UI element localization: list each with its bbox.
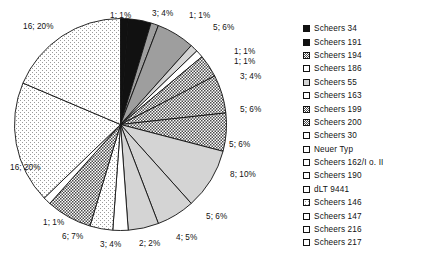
legend-item-label: Scheers 55 <box>314 78 357 87</box>
legend-item[interactable]: Scheers 217 <box>303 236 431 249</box>
pie-slice-label: 1; 1% <box>234 57 255 66</box>
pie-slice-label: 4; 5% <box>176 233 197 242</box>
legend-swatch-icon <box>303 186 310 193</box>
legend-item[interactable]: Scheers 186 <box>303 62 431 75</box>
legend-item-label: Scheers 190 <box>314 171 362 180</box>
pie-slice-label: 1; 1% <box>234 47 255 56</box>
legend-item-label: Scheers 200 <box>314 118 362 127</box>
legend-item[interactable]: Scheers 147 <box>303 209 431 222</box>
legend-swatch-icon <box>303 159 310 166</box>
legend-swatch-icon <box>303 172 310 179</box>
pie-slice-label: 6; 7% <box>62 232 83 241</box>
legend-swatch-icon <box>303 213 310 220</box>
legend-item[interactable]: Scheers 194 <box>303 49 431 62</box>
pie-slice-label: 5; 6% <box>240 105 261 114</box>
pie-slice-label: 5; 6% <box>206 212 227 221</box>
legend-swatch-icon <box>303 65 310 72</box>
legend-swatch-icon <box>303 199 310 206</box>
legend-swatch-icon <box>303 226 310 233</box>
pie-slice-label: 16; 20% <box>10 163 41 172</box>
legend-item-label: Scheers 30 <box>314 131 357 140</box>
legend-item[interactable]: Scheers 190 <box>303 169 431 182</box>
legend-item[interactable]: Neuer Typ <box>303 143 431 156</box>
legend-item[interactable]: Scheers 30 <box>303 129 431 142</box>
legend-item-label: Scheers 199 <box>314 105 362 114</box>
pie-slice-label: 3; 4% <box>152 9 173 18</box>
pie-slice-label: 16; 20% <box>23 22 54 31</box>
pie-slice-label: 2; 2% <box>139 239 160 248</box>
legend-item-label: Scheers 194 <box>314 51 362 60</box>
legend-item-label: Scheers 217 <box>314 238 362 247</box>
legend-item[interactable]: Scheers 163 <box>303 89 431 102</box>
legend-item-label: Scheers 34 <box>314 24 357 33</box>
legend-item[interactable]: Scheers 55 <box>303 76 431 89</box>
legend-item[interactable]: Scheers 34 <box>303 22 431 35</box>
pie-slice-label: 5; 6% <box>229 140 250 149</box>
legend-swatch-icon <box>303 239 310 246</box>
legend-item-label: Scheers 162/I o. II <box>314 158 384 167</box>
legend-swatch-icon <box>303 25 310 32</box>
pie-slice-label: 1; 1% <box>110 11 131 20</box>
pie-slice-label: 3; 4% <box>100 240 121 249</box>
legend-item-label: Scheers 147 <box>314 212 362 221</box>
legend-item-label: Scheers 146 <box>314 198 362 207</box>
pie-chart-plot: 1; 1%3; 4%1; 1%5; 6%1; 1%1; 1%3; 4%5; 6%… <box>0 0 300 257</box>
legend-item[interactable]: Scheers 200 <box>303 116 431 129</box>
legend-item[interactable]: dLT 9441 <box>303 183 431 196</box>
legend-item-label: Scheers 186 <box>314 64 362 73</box>
legend-swatch-icon <box>303 79 310 86</box>
legend-item-label: Scheers 163 <box>314 91 362 100</box>
legend-item[interactable]: Scheers 162/I o. II <box>303 156 431 169</box>
legend-item[interactable]: Scheers 146 <box>303 196 431 209</box>
legend-item-label: dLT 9441 <box>314 185 349 194</box>
chart-legend: Scheers 34Scheers 191Scheers 194Scheers … <box>303 22 431 250</box>
legend-item[interactable]: Scheers 199 <box>303 102 431 115</box>
pie-slice-label: 8; 10% <box>230 170 256 179</box>
legend-item-label: Scheers 216 <box>314 225 362 234</box>
pie-slice-group <box>14 18 226 230</box>
legend-item-label: Scheers 191 <box>314 38 362 47</box>
pie-slice-label: 1; 1% <box>43 218 64 227</box>
pie-slice-label: 5; 6% <box>213 23 234 32</box>
legend-swatch-icon <box>303 52 310 59</box>
legend-item[interactable]: Scheers 216 <box>303 223 431 236</box>
legend-swatch-icon <box>303 106 310 113</box>
legend-swatch-icon <box>303 146 310 153</box>
pie-slice-label: 3; 4% <box>240 72 261 81</box>
pie-chart-figure: 1; 1%3; 4%1; 1%5; 6%1; 1%1; 1%3; 4%5; 6%… <box>0 0 431 257</box>
pie-slice-label: 1; 1% <box>189 11 210 20</box>
legend-swatch-icon <box>303 92 310 99</box>
legend-swatch-icon <box>303 119 310 126</box>
legend-swatch-icon <box>303 39 310 46</box>
legend-item[interactable]: Scheers 191 <box>303 35 431 48</box>
legend-item-label: Neuer Typ <box>314 145 353 154</box>
legend-swatch-icon <box>303 132 310 139</box>
